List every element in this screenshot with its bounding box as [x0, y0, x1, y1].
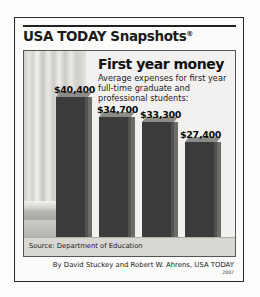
- header-rule: [23, 25, 236, 27]
- bar-side-face: [88, 97, 92, 237]
- bar-value-masters: $27,400: [180, 129, 221, 140]
- byline: By David Stuckey and Robert W. Ahrens, U…: [53, 261, 234, 269]
- snapshot-frame: USA TODAY Snapshots® First year money Av…: [14, 17, 244, 282]
- chart-panel: First year money Average expenses for fi…: [23, 50, 236, 257]
- credit-code: 2007: [222, 270, 234, 275]
- bar-value-medicine: $40,400: [54, 84, 95, 95]
- bar-front-face: [142, 122, 174, 237]
- brand-title: USA TODAY Snapshots®: [23, 28, 193, 44]
- bar-side-face: [217, 142, 221, 237]
- brand-name: USA TODAY Snapshots: [23, 28, 186, 44]
- bar-chart: $40,400 $34,700 $33,300: [24, 51, 236, 237]
- bar-side-face: [174, 122, 178, 237]
- source-band: Source: Department of Education: [24, 237, 236, 256]
- bar-side-face: [131, 117, 135, 237]
- bar-front-face: [56, 97, 88, 237]
- bar-front-face: [185, 142, 217, 237]
- newsprint-page: USA TODAY Snapshots® First year money Av…: [0, 0, 260, 297]
- bar-value-doctoral: $33,300: [140, 109, 181, 120]
- source-text: Source: Department of Education: [29, 242, 143, 250]
- bar-front-face: [99, 117, 131, 237]
- registered-trademark-icon: ®: [186, 30, 193, 38]
- bar-value-law: $34,700: [97, 104, 138, 115]
